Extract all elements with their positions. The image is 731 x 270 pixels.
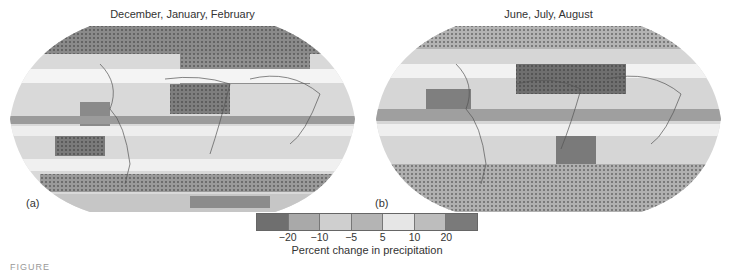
world-map-jja [366,24,731,214]
legend-tick: 10 [409,231,421,243]
legend-swatch [352,214,384,230]
panel-title: June, July, August [366,8,731,20]
panel-label: (b) [375,197,388,209]
legend-tick: −5 [345,231,357,243]
figure-caption: FIGURE [10,262,50,270]
legend-tick: −10 [311,231,329,243]
legend-swatch [257,214,289,230]
legend-tick: 20 [440,231,452,243]
legend-ticks: −20 −10 −5 5 10 20 [256,231,478,243]
legend-swatch [289,214,321,230]
legend-swatch [446,214,477,230]
legend-swatch [383,214,415,230]
world-map-djf [0,24,365,214]
panel-label: (a) [26,197,39,209]
legend: −20 −10 −5 5 10 20 Percent change in pre… [256,213,478,256]
legend-swatch [320,214,352,230]
legend-swatch [415,214,447,230]
legend-colorbar [256,213,478,231]
legend-title: Percent change in precipitation [256,244,478,256]
legend-tick: 5 [380,231,386,243]
panel-title: December, January, February [0,8,365,20]
legend-tick: −20 [279,231,297,243]
